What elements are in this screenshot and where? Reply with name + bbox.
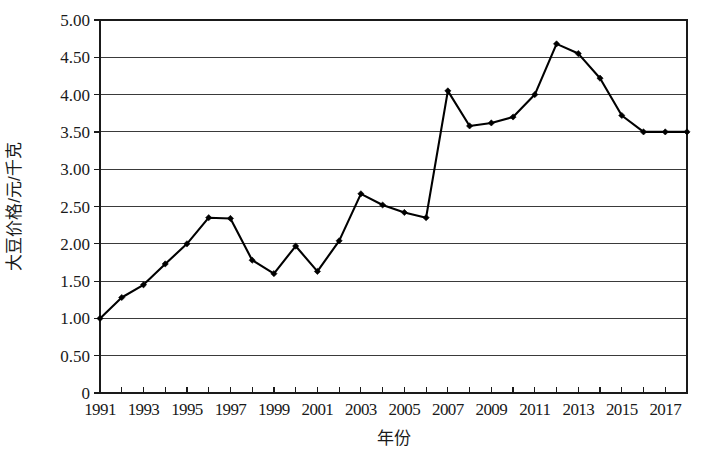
x-tick-label: 2007 xyxy=(432,400,465,419)
x-tick-label: 2003 xyxy=(345,400,377,419)
x-tick-label: 1997 xyxy=(215,400,248,419)
y-tick-label: 4.00 xyxy=(60,86,90,105)
x-tick-label: 1999 xyxy=(258,400,290,419)
y-tick-label: 2.50 xyxy=(60,198,90,217)
x-tick-label: 2011 xyxy=(519,400,550,419)
x-tick-label: 2001 xyxy=(302,400,334,419)
y-tick-label: 4.50 xyxy=(60,48,90,67)
x-tick-label: 2015 xyxy=(606,400,638,419)
y-tick-label: 1.50 xyxy=(60,272,90,291)
y-tick-label: 1.00 xyxy=(60,309,90,328)
x-tick-label: 2005 xyxy=(389,400,421,419)
y-tick-label: 5.00 xyxy=(60,11,90,30)
x-tick-label: 2013 xyxy=(562,400,594,419)
x-axis-title: 年份 xyxy=(377,429,411,448)
x-tick-label: 2017 xyxy=(649,400,682,419)
x-tick-label: 2009 xyxy=(476,400,508,419)
y-tick-label: 0.50 xyxy=(60,347,90,366)
line-chart: 00.501.001.502.002.503.003.504.004.505.0… xyxy=(0,0,709,453)
x-tick-label: 1991 xyxy=(84,400,116,419)
chart-background xyxy=(0,0,709,453)
x-tick-label: 1993 xyxy=(128,400,160,419)
y-axis-title: 大豆价格/元/千克 xyxy=(5,142,24,270)
x-tick-label: 1995 xyxy=(171,400,203,419)
y-tick-label: 3.50 xyxy=(60,123,90,142)
y-tick-label: 2.00 xyxy=(60,235,90,254)
chart-container: 00.501.001.502.002.503.003.504.004.505.0… xyxy=(0,0,709,453)
y-tick-label: 3.00 xyxy=(60,160,90,179)
